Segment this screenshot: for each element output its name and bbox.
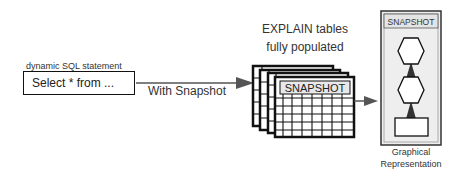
- rectangle-node: [395, 118, 428, 136]
- graphical-caption-line1: Graphical: [381, 147, 441, 157]
- explain-tables-stack: SNAPSHOT: [253, 66, 354, 137]
- graphical-caption-line2: Representation: [371, 159, 451, 169]
- table-sheet-front: SNAPSHOT: [275, 77, 354, 137]
- front-table-title: SNAPSHOT: [285, 82, 346, 94]
- with-snapshot-label: With Snapshot: [148, 84, 226, 98]
- explain-tables-caption-line2: fully populated: [262, 40, 348, 54]
- hexagon-node-1: [398, 38, 424, 64]
- graphical-panel: SNAPSHOT: [381, 11, 441, 145]
- panel-title: SNAPSHOT: [388, 17, 435, 27]
- explain-tables-caption-line1: EXPLAIN tables: [262, 22, 348, 36]
- to-graphical-arrow: [354, 96, 378, 106]
- hexagon-node-2: [398, 77, 424, 103]
